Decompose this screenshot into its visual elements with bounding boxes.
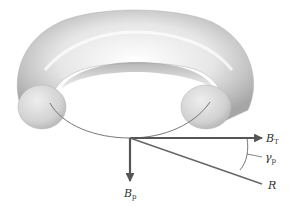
bt-label-main: B (266, 132, 274, 145)
bt-label-sub: T (274, 138, 279, 146)
left-cross-section (18, 85, 66, 129)
gamma-label-sub: p (272, 157, 276, 165)
gamma-leader-line (247, 154, 262, 157)
bt-label: BT (266, 133, 279, 146)
r-line (130, 138, 262, 184)
bp-label: Bp (124, 188, 137, 201)
torus-diagram (0, 0, 292, 206)
bp-label-main: B (124, 187, 132, 200)
bp-label-sub: p (132, 193, 136, 201)
diagram-canvas: BT γp R Bp (0, 0, 292, 206)
pitch-angle-arc (240, 138, 248, 170)
r-label-main: R (268, 179, 276, 192)
torus (17, 10, 253, 129)
gamma-label: γp (265, 152, 276, 165)
gamma-label-main: γ (265, 151, 272, 164)
r-label: R (268, 180, 276, 191)
